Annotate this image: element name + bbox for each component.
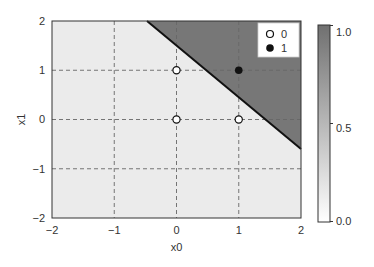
legend-label-1: 1 <box>281 42 287 54</box>
x-axis-label: x0 <box>171 241 183 253</box>
x-tick-labels: −2 −1 0 1 2 <box>46 224 304 236</box>
legend-marker-filled-circle-icon <box>266 44 274 52</box>
svg-text:2: 2 <box>298 224 304 236</box>
colorbar-tick-1: 1.0 <box>336 26 351 38</box>
svg-text:0: 0 <box>39 113 45 125</box>
svg-text:−2: −2 <box>46 224 59 236</box>
svg-text:2: 2 <box>39 15 45 27</box>
colorbar-tick-05: 0.5 <box>336 122 351 134</box>
point-1-1 <box>235 66 243 74</box>
y-tick-labels: 2 1 0 −1 −2 <box>32 15 45 224</box>
svg-text:0: 0 <box>173 224 179 236</box>
y-axis-label: x1 <box>15 114 27 126</box>
colorbar: 1.0 0.5 0.0 <box>318 25 351 227</box>
svg-text:−2: −2 <box>32 212 45 224</box>
point-0-0 <box>173 116 180 123</box>
chart: 0 1 2 1 0 −1 −2 −2 −1 0 1 2 x0 x1 1.0 0.… <box>0 0 374 267</box>
svg-text:1: 1 <box>39 64 45 76</box>
svg-text:1: 1 <box>236 224 242 236</box>
svg-text:−1: −1 <box>108 224 121 236</box>
point-0-1 <box>173 67 180 74</box>
point-1-0 <box>235 116 242 123</box>
colorbar-tick-0: 0.0 <box>336 215 351 227</box>
legend-label-0: 0 <box>281 28 287 40</box>
legend: 0 1 <box>258 23 299 57</box>
legend-marker-open-circle-icon <box>267 31 274 38</box>
series-class-1 <box>235 66 243 74</box>
svg-text:−1: −1 <box>32 163 45 175</box>
